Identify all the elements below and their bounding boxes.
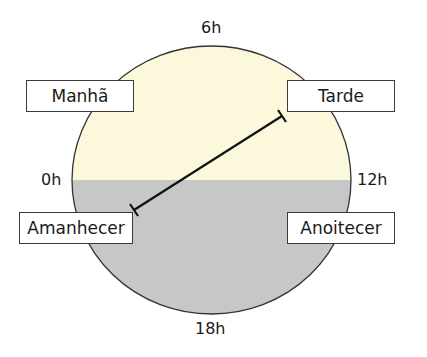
period-box-amanhecer: Amanhecer: [19, 212, 133, 244]
period-label-amanhecer: Amanhecer: [27, 218, 124, 238]
hour-label-12h: 12h: [357, 171, 388, 189]
period-box-tarde: Tarde: [287, 80, 395, 112]
period-box-anoitecer: Anoitecer: [287, 212, 395, 244]
hour-label-18h: 18h: [195, 320, 226, 338]
hour-label-0h: 0h: [41, 171, 61, 189]
period-label-anoitecer: Anoitecer: [300, 218, 381, 238]
hour-label-6h: 6h: [201, 19, 221, 37]
period-box-manha: Manhã: [26, 80, 134, 112]
period-label-tarde: Tarde: [318, 86, 364, 106]
period-label-manha: Manhã: [51, 86, 108, 106]
